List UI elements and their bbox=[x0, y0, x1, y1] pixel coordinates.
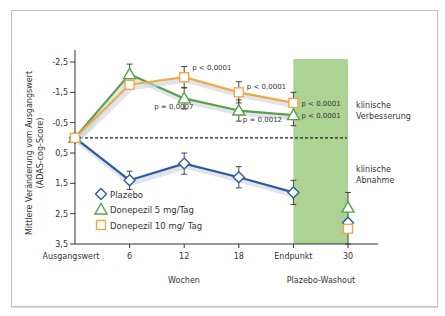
series-line-shadow bbox=[77, 141, 295, 196]
p-value-label: p = 0,0007 bbox=[154, 103, 193, 111]
y-axis-label: Mittlere Veränderung vom Ausgangswert(AD… bbox=[25, 71, 45, 235]
y-tick-label: 1,5 bbox=[55, 179, 68, 188]
marker-square bbox=[234, 88, 243, 97]
y-tick-label: 2,5 bbox=[55, 210, 68, 219]
marker-square bbox=[71, 133, 80, 142]
marker-diamond bbox=[96, 189, 107, 200]
x-tick-label: 6 bbox=[127, 252, 132, 261]
marker-square bbox=[289, 98, 298, 107]
annotation-label: Abnahme bbox=[356, 176, 394, 185]
annotation-label: klinische bbox=[356, 165, 391, 174]
annotation-label: Verbesserung bbox=[356, 112, 411, 121]
marker-triangle bbox=[124, 68, 136, 79]
marker-square bbox=[125, 80, 134, 89]
marker-square bbox=[180, 73, 189, 82]
p-value-label: p < 0,0001 bbox=[301, 112, 340, 120]
p-value-label: p < 0,0001 bbox=[301, 100, 340, 108]
x-tick-label: 30 bbox=[343, 252, 353, 261]
marker-square bbox=[97, 221, 106, 230]
x-tick-label: 12 bbox=[179, 252, 189, 261]
legend-item: Donepezil 5 mg/Tag bbox=[95, 204, 194, 216]
annotation-label: klinische bbox=[356, 101, 391, 110]
p-value-label: p < 0,0001 bbox=[247, 83, 286, 91]
x-tick-label: 18 bbox=[234, 252, 244, 261]
x-axis-secondary-label: Plazebo-Washout bbox=[287, 276, 355, 285]
y-axis-label-line2: (ADAS-cog-Score) bbox=[36, 118, 45, 189]
y-tick-label: 3,5 bbox=[55, 240, 68, 249]
y-tick-label: -1,5 bbox=[52, 88, 68, 97]
x-tick-label: Endpunkt bbox=[274, 252, 312, 261]
p-value-label: p < 0,0001 bbox=[192, 64, 231, 72]
legend-label: Plazebo bbox=[110, 190, 143, 200]
y-tick-label: -0,5 bbox=[52, 119, 68, 128]
marker-triangle bbox=[95, 204, 107, 215]
x-tick-label: Ausgangswert bbox=[43, 252, 100, 261]
legend-label: Donepezil 10 mg/ Tag bbox=[110, 221, 202, 231]
y-tick-label: 0,5 bbox=[55, 149, 68, 158]
p-value-label: p = 0,0012 bbox=[243, 116, 282, 124]
legend-item: Plazebo bbox=[96, 189, 143, 200]
washout-region bbox=[293, 59, 348, 244]
y-axis-label-line1: Mittlere Veränderung vom Ausgangswert bbox=[25, 71, 34, 235]
marker-square bbox=[344, 224, 353, 233]
legend-label: Donepezil 5 mg/Tag bbox=[110, 205, 194, 215]
legend-item: Donepezil 10 mg/ Tag bbox=[97, 221, 203, 231]
chart: -2,5-1,5-0,50,51,52,53,5Ausgangswert6121… bbox=[0, 0, 445, 316]
x-axis-label: Wochen bbox=[168, 276, 200, 285]
y-tick-label: -2,5 bbox=[52, 58, 68, 67]
